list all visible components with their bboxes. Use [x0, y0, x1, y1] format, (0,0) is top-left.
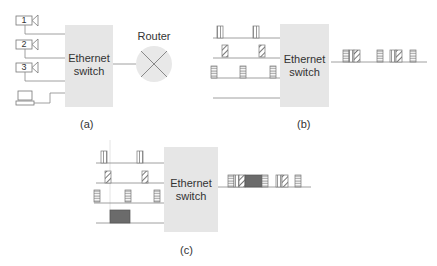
packet-cam1: [217, 26, 223, 38]
packet-cam3: [270, 66, 276, 78]
camera-3-label: 3: [16, 61, 32, 74]
router-label: Router: [134, 30, 174, 43]
caption-c: (c): [180, 244, 193, 256]
switch-c-label: Ethernet switch: [164, 177, 218, 203]
camera-1-label: 1: [16, 14, 32, 27]
switch-b-label: Ethernet switch: [280, 53, 329, 79]
packet-cam2: [222, 45, 228, 57]
packet-cam2: [259, 45, 265, 57]
caption-b: (b): [297, 118, 310, 130]
packet-cam3: [240, 66, 246, 78]
link-computer: [34, 93, 65, 103]
camera-2-label: 2: [16, 38, 32, 51]
packet-computer-large: [110, 210, 130, 223]
router-icon: [136, 46, 172, 82]
packet-cam3: [211, 66, 217, 78]
computer-icon: [16, 91, 34, 105]
caption-a: (a): [80, 118, 93, 130]
packet-cam1: [253, 26, 259, 38]
diagram-canvas: [0, 0, 437, 266]
switch-a-label: Ethernet switch: [65, 52, 113, 78]
